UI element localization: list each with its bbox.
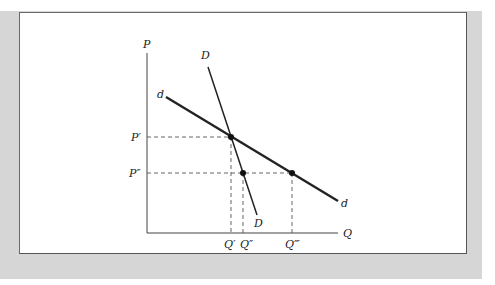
d-start-label: d (157, 88, 164, 101)
y-axis-label: P (142, 38, 151, 51)
D-bottom-label: D (253, 217, 263, 230)
point-intersection (228, 134, 234, 140)
q2-label: Q″ (240, 238, 254, 251)
q3-label: Q‴ (285, 238, 300, 251)
point-D-p2 (240, 170, 246, 176)
guide-lines (147, 137, 292, 233)
curve-D-inelastic (208, 67, 257, 215)
curve-d-elastic (166, 97, 338, 201)
demand-chart: P Q D D d d P′ P″ Q′ Q″ Q‴ (0, 0, 495, 285)
p2-label: P″ (128, 167, 141, 180)
q1-label: Q′ (224, 238, 236, 251)
p1-label: P′ (130, 131, 141, 144)
point-d-p2 (289, 170, 295, 176)
d-end-label: d (341, 197, 348, 210)
x-axis-label: Q (343, 227, 352, 240)
D-top-label: D (200, 49, 210, 62)
